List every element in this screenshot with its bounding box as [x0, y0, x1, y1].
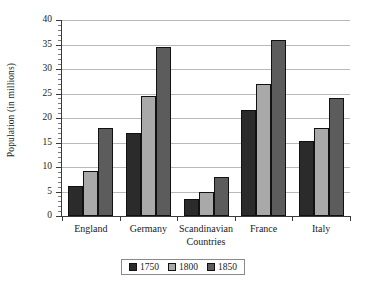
chart-legend: 175018001850: [121, 259, 245, 275]
bar-england-1800: [83, 171, 98, 216]
x-label-scandinavian-countries: Scandinavian Countries: [177, 223, 235, 248]
legend-label-1800: 1800: [179, 262, 198, 272]
gridline-20: [62, 118, 350, 119]
y-axis-title: Population (in millions): [0, 0, 22, 220]
bar-scandinavian-countries-1850: [214, 177, 229, 216]
y-axis-spine: [61, 20, 62, 217]
y-tick-label-10: 10: [22, 161, 52, 171]
gridline-30: [62, 69, 350, 70]
y-tick-label-20: 20: [22, 112, 52, 122]
bar-scandinavian-countries-1750: [184, 199, 199, 216]
bar-germany-1750: [126, 133, 141, 216]
legend-label-1750: 1750: [140, 262, 159, 272]
legend-item-1850[interactable]: 1850: [207, 262, 237, 272]
y-tick-label-0: 0: [22, 210, 52, 220]
x-tick: [177, 217, 178, 221]
legend-item-1800[interactable]: 1800: [168, 262, 198, 272]
x-label-italy: Italy: [292, 223, 350, 236]
y-axis-title-text: Population (in millions): [6, 63, 16, 157]
x-tick: [292, 217, 293, 221]
x-tick: [350, 217, 351, 221]
y-tick-label-35: 35: [22, 39, 52, 49]
bar-england-1750: [68, 186, 83, 216]
gridline-40: [62, 20, 350, 21]
legend-item-1750[interactable]: 1750: [129, 262, 159, 272]
bar-england-1850: [98, 128, 113, 216]
y-tick-label-5: 5: [22, 186, 52, 196]
x-tick: [120, 217, 121, 221]
bar-italy-1800: [314, 128, 329, 216]
bar-france-1750: [241, 110, 256, 216]
y-tick-label-30: 30: [22, 63, 52, 73]
x-label-england: England: [62, 223, 120, 236]
y-tick-label-15: 15: [22, 137, 52, 147]
bar-italy-1750: [299, 141, 314, 216]
x-label-germany: Germany: [120, 223, 178, 236]
x-axis-spine: [61, 216, 351, 217]
x-label-france: France: [235, 223, 293, 236]
bar-italy-1850: [329, 98, 344, 216]
gridline-25: [62, 94, 350, 95]
y-tick-label-25: 25: [22, 88, 52, 98]
y-tick-label-40: 40: [22, 14, 52, 24]
legend-swatch-icon: [207, 263, 215, 271]
bar-germany-1800: [141, 96, 156, 216]
plot-area: [62, 20, 350, 216]
legend-label-1850: 1850: [218, 262, 237, 272]
legend-swatch-icon: [129, 263, 137, 271]
bar-france-1850: [271, 40, 286, 216]
x-tick: [235, 217, 236, 221]
x-tick: [62, 217, 63, 221]
bar-scandinavian-countries-1800: [199, 192, 214, 217]
bar-germany-1850: [156, 47, 171, 216]
bar-france-1800: [256, 84, 271, 216]
legend-swatch-icon: [168, 263, 176, 271]
bar-chart: Population (in millions) 051015202530354…: [0, 0, 374, 285]
gridline-35: [62, 45, 350, 46]
